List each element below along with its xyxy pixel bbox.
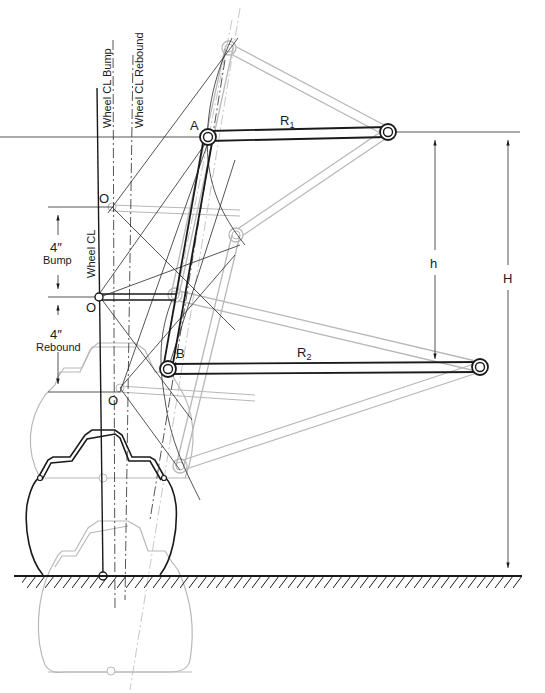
ball-joint-a	[200, 129, 216, 145]
bump-label: Bump	[43, 254, 72, 266]
wheel-cl-line	[97, 88, 103, 576]
design-linkage	[95, 124, 488, 377]
h-label: h	[430, 256, 437, 271]
wheel-centerlines	[97, 40, 225, 610]
bump-value: 4″	[50, 240, 62, 255]
upper-control-arm	[208, 124, 396, 141]
o-bottom-label: O	[108, 393, 118, 408]
wheel-cl-bump-label: Wheel CL Bump	[101, 48, 113, 128]
lower-arm-rebound	[173, 362, 480, 473]
rebound-value: 4″	[50, 327, 62, 342]
r2-label: R2	[297, 345, 311, 362]
dimension-h: h	[430, 140, 437, 359]
o-mid-label: O	[86, 300, 96, 315]
point-b-label: B	[176, 346, 185, 361]
dimension-bump: 4″ Bump	[43, 215, 72, 289]
upper-arm-bump	[222, 41, 388, 137]
o-top-label: O	[99, 191, 109, 206]
wheel-center-o	[95, 293, 103, 301]
wheel-cl-label: Wheel CL	[85, 230, 97, 278]
wheel-cl-rebound-label: Wheel CL Rebound	[133, 32, 145, 128]
rebound-label: Rebound	[36, 341, 81, 353]
knuckle-rebound	[176, 235, 240, 466]
r1-label: R1	[280, 113, 294, 130]
ball-joint-b	[160, 361, 176, 377]
construction-lines	[0, 38, 520, 500]
ground-line	[14, 576, 522, 588]
wheel-cl-bump-line	[113, 40, 115, 610]
H-label: H	[503, 271, 512, 286]
upper-arm-rebound	[229, 127, 388, 242]
dimension-H: H	[503, 140, 512, 568]
lower-arm-bump	[168, 288, 480, 372]
spindle-design	[95, 293, 176, 301]
suspension-diagram: h H 4″ Bump 4″ Rebound Wheel CL Bump Whe…	[0, 0, 545, 693]
point-a-label: A	[190, 118, 199, 133]
lower-control-arm	[168, 359, 488, 375]
